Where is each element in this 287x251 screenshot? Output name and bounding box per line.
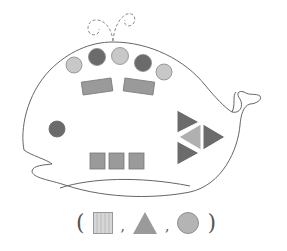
- circle-light-2: [112, 48, 129, 65]
- triangle-answer-blank[interactable]: [133, 212, 157, 234]
- open-paren: (: [76, 212, 85, 234]
- square-3: [129, 153, 144, 169]
- water-spout-icon: [88, 14, 135, 41]
- circle-row: [66, 48, 172, 81]
- rectangle-left: [81, 78, 113, 95]
- rectangle-brows: [81, 78, 154, 95]
- answer-choices: ( , , ): [76, 206, 216, 240]
- close-paren: ): [207, 212, 216, 234]
- separator-comma: ,: [121, 218, 125, 234]
- square-row: [90, 153, 144, 169]
- eye-circle: [49, 121, 65, 137]
- whale-tail: [232, 92, 236, 112]
- square-answer-blank[interactable]: [93, 212, 113, 234]
- circle-light-3: [156, 64, 172, 80]
- circle-answer-blank[interactable]: [177, 212, 199, 234]
- circle-light-1: [66, 57, 82, 73]
- square-1: [90, 153, 105, 169]
- whale-belly-line: [60, 179, 190, 188]
- triangle-group: [177, 110, 225, 165]
- square-2: [109, 153, 124, 169]
- triangle-middle-right-dark: [203, 124, 225, 150]
- circle-dark-1: [89, 49, 106, 66]
- separator-comma: ,: [165, 218, 169, 234]
- rectangle-right: [123, 78, 155, 95]
- circle-dark-2: [135, 55, 152, 72]
